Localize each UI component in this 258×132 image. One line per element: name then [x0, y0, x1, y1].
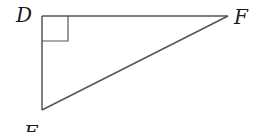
vertex-label-E: E: [23, 121, 39, 132]
vertex-label-D: D: [15, 3, 32, 27]
side-EF: [42, 16, 228, 110]
triangle-sides: [42, 16, 228, 110]
right-angle-marker: [42, 16, 68, 41]
vertex-label-F: F: [233, 5, 249, 29]
triangle-diagram: D F E: [0, 0, 258, 132]
